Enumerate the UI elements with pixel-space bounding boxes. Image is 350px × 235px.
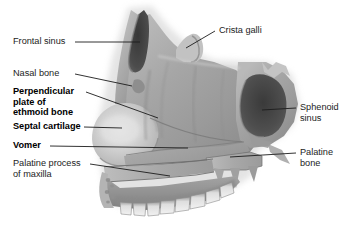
tooth (175, 197, 190, 212)
label-crista-galli: Crista galli (219, 25, 262, 36)
tooth (147, 202, 160, 216)
label-nasal-bone: Nasal bone (13, 68, 59, 79)
anatomy-figure: Frontal sinus Nasal bone Perpendicular p… (0, 0, 350, 235)
septal-cartilage-highlight (100, 115, 140, 145)
pterygoid-process (268, 144, 290, 164)
tooth (160, 200, 175, 214)
tooth (120, 202, 132, 215)
label-vomer: Vomer (13, 140, 41, 151)
tooth (133, 203, 146, 216)
label-perpendicular-plate-of-ethmoid-bone: Perpendicular plate of ethmoid bone (13, 86, 74, 118)
sphenoid-sinus (240, 74, 287, 137)
label-palatine-bone: Palatine bone (300, 147, 333, 168)
label-palatine-process-of-maxilla: Palatine process of maxilla (13, 158, 81, 179)
label-sphenoid-sinus: Sphenoid sinus (300, 102, 339, 123)
label-frontal-sinus: Frontal sinus (13, 36, 65, 47)
label-septal-cartilage: Septal cartilage (13, 121, 81, 132)
